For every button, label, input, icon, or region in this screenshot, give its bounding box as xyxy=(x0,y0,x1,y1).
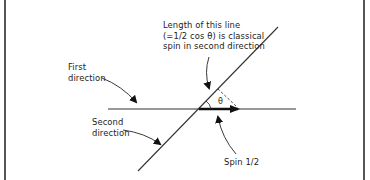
first-direction-label: First direction xyxy=(68,62,106,83)
spin-label: Spin 1/2 xyxy=(224,157,259,167)
second-direction-label: Second direction xyxy=(92,117,130,138)
length-note-pointer-arrow xyxy=(207,57,210,88)
spin-pointer-arrow xyxy=(218,117,236,154)
theta-label: θ xyxy=(218,97,223,106)
length-note-label: Length of this line (=1/2 cos θ) is clas… xyxy=(163,20,267,51)
first-direction-pointer-arrow xyxy=(102,78,136,102)
spin-diagram: θ First direction Second direction Lengt… xyxy=(0,0,370,180)
